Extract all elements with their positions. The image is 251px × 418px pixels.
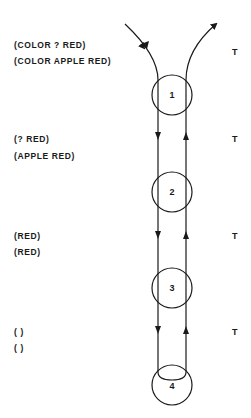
svg-text:3: 3 [169,283,174,293]
svg-text:1: 1 [169,90,174,100]
down-arrow-icon [155,326,161,334]
down-arrow-icon [155,132,161,140]
down-arrow-icon [155,231,161,239]
node-4: 4 [152,365,192,405]
up-arrow-icon [183,326,189,334]
up-arrow-icon [183,132,189,140]
recursion-flow-diagram: 1 2 3 4 [0,0,251,418]
incoming-arrow [125,24,158,80]
outgoing-arrow [186,24,216,80]
svg-text:4: 4 [169,381,174,391]
svg-text:2: 2 [169,187,174,197]
bottom-turn [158,372,186,380]
up-arrow-icon [183,231,189,239]
